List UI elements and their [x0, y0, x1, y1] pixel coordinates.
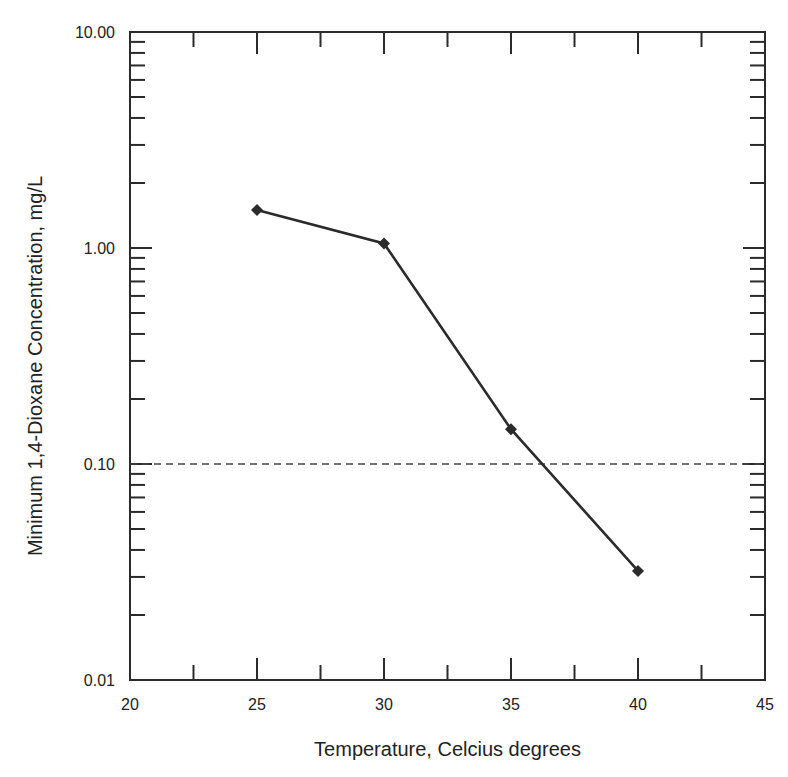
- series-markers: [251, 204, 644, 577]
- x-tick-label: 45: [756, 696, 774, 713]
- chart: 202530354045 0.010.101.0010.00 Temperatu…: [0, 0, 788, 777]
- x-axis-title: Temperature, Celcius degrees: [314, 738, 581, 760]
- x-tick-label: 35: [502, 696, 520, 713]
- y-tick-label: 0.01: [84, 672, 115, 689]
- x-tick-label: 20: [121, 696, 139, 713]
- y-axis-title: Minimum 1,4-Dioxane Concentration, mg/L: [24, 176, 46, 556]
- x-tick-labels: 202530354045: [121, 696, 774, 713]
- y-tick-label: 10.00: [75, 24, 115, 41]
- y-tick-label: 1.00: [84, 240, 115, 257]
- series-line: [257, 210, 638, 571]
- x-tick-label: 25: [248, 696, 266, 713]
- data-point-marker: [251, 204, 263, 216]
- y-tick-labels: 0.010.101.0010.00: [75, 24, 115, 689]
- x-tick-label: 40: [629, 696, 647, 713]
- axis-ticks: [130, 32, 765, 680]
- x-tick-label: 30: [375, 696, 393, 713]
- plot-frame: [130, 32, 765, 680]
- y-tick-label: 0.10: [84, 456, 115, 473]
